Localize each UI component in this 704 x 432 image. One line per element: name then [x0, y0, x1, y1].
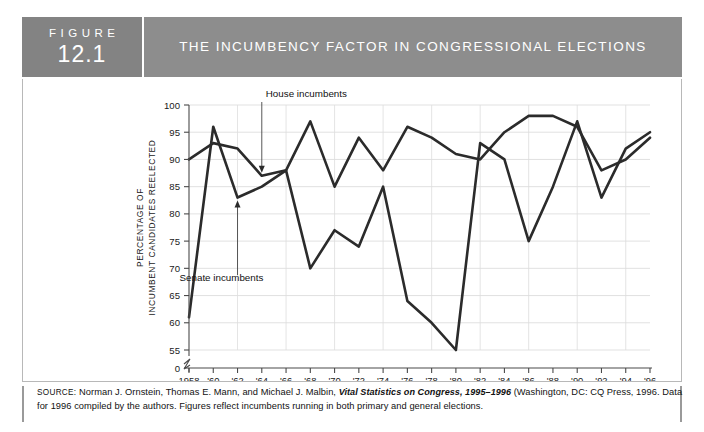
x-tick-label: '68 — [304, 375, 316, 381]
x-tick-label: '60 — [207, 375, 219, 381]
x-tick-label: '80 — [450, 375, 462, 381]
incumbency-line-chart: 10095908580757065605501958'60'62'64'66'6… — [23, 79, 681, 381]
source-publisher: (Washington, DC: CQ Press, 1996. Data — [511, 387, 682, 397]
y-tick-label: 60 — [169, 317, 180, 328]
x-tick-label: '96 — [644, 375, 656, 381]
y-tick-label: 85 — [169, 181, 180, 192]
x-tick-label: '90 — [571, 375, 583, 381]
x-tick-label: '78 — [426, 375, 438, 381]
y-tick-label: 100 — [164, 100, 180, 111]
figure-number-box: FIGURE 12.1 — [22, 17, 144, 77]
source-line-2: for 1996 compiled by the authors. Figure… — [37, 400, 680, 414]
source-line-1: SOURCE: Norman J. Ornstein, Thomas E. Ma… — [37, 386, 680, 400]
source-note: SOURCE: Norman J. Ornstein, Thomas E. Ma… — [22, 386, 682, 422]
x-tick-label: '92 — [595, 375, 607, 381]
x-tick-label: '64 — [256, 375, 268, 381]
annotation-arrowhead-senate — [235, 201, 241, 208]
chart-axes — [184, 102, 652, 373]
figure-number-label: 12.1 — [58, 43, 107, 66]
series-line — [189, 116, 650, 187]
chart-panel: 10095908580757065605501958'60'62'64'66'6… — [22, 79, 682, 382]
x-tick-label: '84 — [498, 375, 510, 381]
source-authors: Norman J. Ornstein, Thomas E. Mann, and … — [76, 387, 338, 397]
annotation-house-incumbents: House incumbents — [266, 88, 347, 99]
y-tick-label: 70 — [169, 263, 180, 274]
source-label: SOURCE: — [37, 388, 76, 397]
figure-word-label: FIGURE — [45, 28, 120, 40]
y-tick-label: 65 — [169, 290, 180, 301]
y-tick-label: 90 — [169, 154, 180, 165]
x-tick-label: '76 — [401, 375, 413, 381]
y-tick-label: 80 — [169, 208, 180, 219]
x-tick-label: 1958 — [179, 375, 200, 381]
x-tick-label: '72 — [353, 375, 365, 381]
page-title: THE INCUMBENCY FACTOR IN CONGRESSIONAL E… — [179, 37, 647, 57]
figure-page: FIGURE 12.1 THE INCUMBENCY FACTOR IN CON… — [0, 0, 704, 432]
x-tick-label: '94 — [620, 375, 632, 381]
figure-header: FIGURE 12.1 THE INCUMBENCY FACTOR IN CON… — [22, 17, 682, 77]
x-tick-label: '82 — [474, 375, 486, 381]
x-tick-label: '66 — [280, 375, 292, 381]
x-tick-label: '88 — [547, 375, 559, 381]
y-tick-label: 75 — [169, 236, 180, 247]
y-tick-label: 55 — [169, 345, 180, 356]
x-tick-label: '74 — [377, 375, 389, 381]
series-line — [189, 121, 650, 350]
y-tick-label: 0 — [175, 363, 180, 374]
x-tick-label: '70 — [328, 375, 340, 381]
x-tick-label: '62 — [231, 375, 243, 381]
y-tick-label: 95 — [169, 127, 180, 138]
y-axis-title-line1: PERCENTAGE OF — [135, 188, 145, 267]
figure-title-box: THE INCUMBENCY FACTOR IN CONGRESSIONAL E… — [144, 17, 682, 77]
x-tick-label: '86 — [523, 375, 535, 381]
chart-series-lines — [189, 116, 650, 350]
source-work-title: Vital Statistics on Congress, 1995–1996 — [339, 387, 511, 397]
y-axis-title-line2: INCUMBENT CANDIDATES REELECTED — [147, 140, 157, 316]
annotation-senate-incumbents: Senate incumbents — [180, 272, 264, 283]
